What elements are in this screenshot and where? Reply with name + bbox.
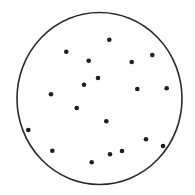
dot bbox=[150, 53, 155, 58]
dot bbox=[104, 119, 109, 124]
dot bbox=[108, 152, 113, 157]
dot bbox=[89, 160, 94, 165]
dot bbox=[120, 149, 125, 154]
dot bbox=[49, 92, 54, 97]
dot bbox=[82, 82, 87, 87]
background bbox=[0, 0, 195, 195]
dot bbox=[26, 128, 31, 133]
dot bbox=[144, 137, 149, 142]
dot bbox=[96, 76, 101, 81]
dot bbox=[107, 37, 112, 42]
dot bbox=[161, 144, 166, 149]
dot bbox=[164, 86, 169, 91]
dot-circle-diagram bbox=[0, 0, 195, 195]
dot bbox=[50, 148, 55, 153]
dot bbox=[135, 87, 140, 92]
dot bbox=[86, 58, 91, 63]
dot bbox=[64, 49, 69, 54]
dot bbox=[74, 106, 79, 111]
dot bbox=[129, 60, 134, 65]
